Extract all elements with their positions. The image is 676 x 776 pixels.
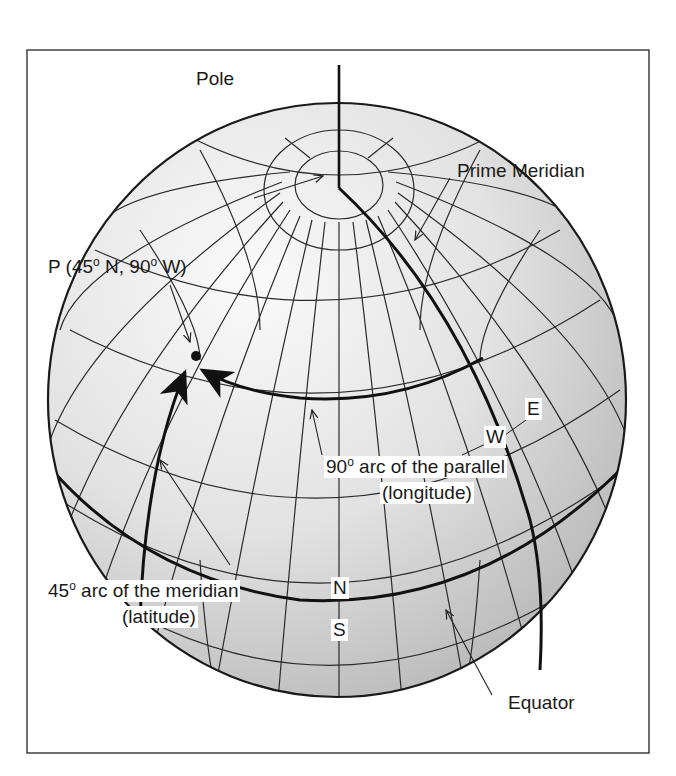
south-label: S (331, 619, 348, 641)
degree-symbol: o (69, 579, 76, 593)
point-p-text-3: W) (157, 256, 187, 277)
meridian-arc-sublabel: (latitude) (120, 606, 198, 628)
parallel-arc-text: arc of the parallel (354, 456, 505, 477)
east-label: E (525, 398, 542, 420)
point-p-marker (191, 351, 201, 361)
meridian-arc-text: arc of the meridian (76, 580, 239, 601)
west-label: W (484, 426, 506, 448)
globe-diagram (0, 0, 676, 776)
point-p-label: P (45o N, 90o W) (48, 256, 187, 278)
parallel-arc-sublabel: (longitude) (380, 482, 474, 504)
meridian-arc-number: 45 (48, 580, 69, 601)
point-p-text-1: P (45 (48, 256, 93, 277)
point-p-text-2: N, 90 (100, 256, 151, 277)
north-label: N (331, 577, 349, 599)
pole-label: Pole (196, 68, 234, 90)
equator-label: Equator (508, 692, 575, 714)
parallel-arc-label: 90o arc of the parallel (324, 456, 507, 478)
degree-symbol: o (93, 255, 100, 269)
parallel-arc-number: 90 (326, 456, 347, 477)
degree-symbol: o (347, 455, 354, 469)
prime-meridian-label: Prime Meridian (457, 160, 585, 182)
meridian-arc-label: 45o arc of the meridian (46, 580, 240, 602)
